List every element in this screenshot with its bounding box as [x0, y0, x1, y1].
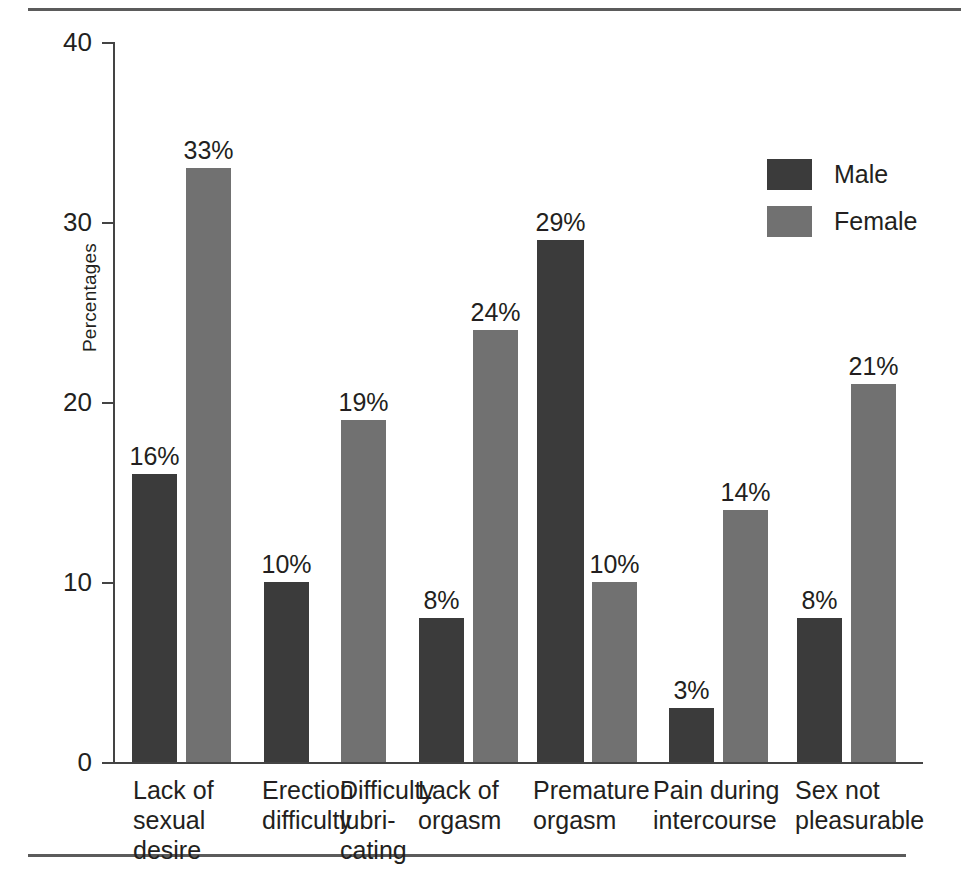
- bar-male-1[interactable]: 10%: [264, 582, 309, 762]
- y-tick-label: 10: [63, 567, 92, 597]
- chart-legend: MaleFemale: [767, 151, 917, 245]
- bar-value-label: 29%: [535, 210, 585, 235]
- bar-female-2[interactable]: 19%: [341, 420, 386, 762]
- bar-value-label: 14%: [720, 480, 770, 505]
- bar-value-label: 3%: [673, 678, 709, 703]
- category-label-6: Sex not pleasurable: [795, 775, 924, 835]
- y-tick-label: 0: [78, 747, 92, 777]
- legend-label-male: Male: [834, 162, 888, 187]
- bar-value-label: 10%: [261, 552, 311, 577]
- bar-female-6[interactable]: 21%: [851, 384, 896, 762]
- plot-area: Percentages 403020100 16%33%10%19%8%24%2…: [113, 42, 923, 762]
- y-tick-10: 10: [102, 582, 113, 584]
- bar-value-label: 8%: [423, 588, 459, 613]
- figure-container: Percentages 403020100 16%33%10%19%8%24%2…: [0, 0, 961, 870]
- legend-swatch-female: [767, 206, 812, 237]
- bar-male-6[interactable]: 8%: [797, 618, 842, 762]
- x-axis-line: [113, 762, 923, 764]
- y-tick-40: 40: [102, 42, 113, 44]
- legend-swatch-male: [767, 159, 812, 190]
- y-tick-0: 0: [102, 762, 113, 764]
- y-tick-label: 20: [63, 387, 92, 417]
- legend-item-female[interactable]: Female: [767, 198, 917, 245]
- bar-female-5[interactable]: 14%: [723, 510, 768, 762]
- bar-male-5[interactable]: 3%: [669, 708, 714, 762]
- category-label-3: Lack of orgasm: [418, 775, 501, 835]
- y-tick-20: 20: [102, 402, 113, 404]
- legend-label-female: Female: [834, 209, 917, 234]
- bar-value-label: 21%: [848, 354, 898, 379]
- y-tick-label: 40: [63, 27, 92, 57]
- bar-male-3[interactable]: 8%: [419, 618, 464, 762]
- bar-male-0[interactable]: 16%: [132, 474, 177, 762]
- y-axis-title: Percentages: [79, 243, 101, 352]
- y-tick-label: 30: [63, 207, 92, 237]
- bar-value-label: 16%: [129, 444, 179, 469]
- top-rule: [28, 8, 961, 11]
- bar-female-4[interactable]: 10%: [592, 582, 637, 762]
- category-label-5: Pain during intercourse: [653, 775, 779, 835]
- category-label-4: Premature orgasm: [533, 775, 650, 835]
- y-tick-30: 30: [102, 222, 113, 224]
- bar-value-label: 33%: [183, 138, 233, 163]
- bar-value-label: 8%: [801, 588, 837, 613]
- legend-item-male[interactable]: Male: [767, 151, 917, 198]
- bar-value-label: 10%: [589, 552, 639, 577]
- bar-female-3[interactable]: 24%: [473, 330, 518, 762]
- bar-value-label: 24%: [470, 300, 520, 325]
- bar-male-4[interactable]: 29%: [537, 240, 584, 762]
- bar-female-0[interactable]: 33%: [186, 168, 231, 762]
- category-label-0: Lack of sexual desire: [133, 775, 214, 865]
- bar-value-label: 19%: [338, 390, 388, 415]
